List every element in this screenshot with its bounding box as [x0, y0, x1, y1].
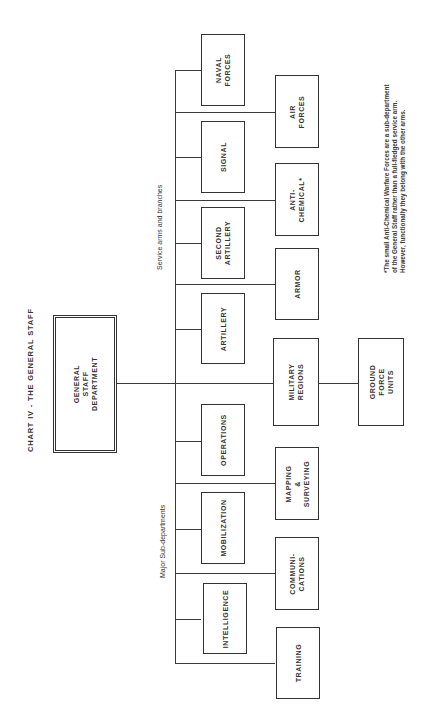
connector-artillery [175, 329, 201, 330]
armor-box: ARMOR [275, 248, 319, 320]
communications-box: COMMUNI- CATIONS [275, 537, 319, 610]
second-artillery-label: SECOND ARTILLERY [214, 221, 232, 265]
connector-air [175, 112, 275, 113]
connector-armor [175, 284, 275, 285]
connector-intelligence [175, 619, 201, 620]
military-regions-box: MILITARY REGIONS [273, 338, 319, 426]
connector-second-artillery [175, 243, 201, 244]
spine-line [175, 70, 176, 664]
intelligence-label: INTELLIGENCE [221, 589, 230, 648]
anti-chemical-box: ANTI- CHEMICAL* [275, 163, 319, 236]
service-arms-label: Service arms and branches [156, 185, 163, 270]
ground-force-units-box: GROUND FORCE UNITS [358, 338, 404, 426]
connector-mapping [175, 483, 275, 484]
chart-title: CHART IV - THE GENERAL STAFF [26, 308, 35, 452]
connector-anti-chemical [175, 200, 275, 201]
connector-naval [175, 70, 201, 71]
armor-label: ARMOR [293, 269, 302, 298]
second-artillery-box: SECOND ARTILLERY [201, 207, 245, 279]
sub-departments-label: Major Sub-departments [159, 505, 166, 578]
root-connector [117, 383, 275, 384]
anti-chemical-label: ANTI- CHEMICAL* [288, 177, 306, 222]
general-staff-department-box: GENERAL STAFF DEPARTMENT [53, 315, 117, 453]
mobilization-box: MOBILIZATION [201, 492, 245, 564]
military-regions-label: MILITARY REGIONS [287, 363, 305, 400]
intelligence-box: INTELLIGENCE [203, 583, 247, 654]
mapping-surveying-box: MAPPING & SURVEYING [275, 447, 319, 520]
operations-label: OPERATIONS [219, 414, 228, 466]
naval-forces-box: NAVAL FORCES [201, 34, 245, 106]
ground-force-units-label: GROUND FORCE UNITS [368, 365, 395, 400]
connector-communications [175, 573, 275, 574]
footnote: *The small Anti-Chemical Warfare Forces … [383, 85, 407, 274]
signal-box: SIGNAL [201, 121, 245, 193]
connector-signal [175, 157, 201, 158]
operations-box: OPERATIONS [201, 404, 245, 476]
connector-training [175, 663, 275, 664]
training-box: TRAINING [276, 627, 320, 699]
air-forces-box: AIR FORCES [275, 75, 319, 148]
mobilization-label: MOBILIZATION [219, 499, 228, 556]
general-staff-department-label: GENERAL STAFF DEPARTMENT [72, 357, 99, 411]
signal-label: SIGNAL [219, 142, 228, 172]
communications-label: COMMUNI- CATIONS [288, 553, 306, 594]
naval-forces-label: NAVAL FORCES [214, 54, 232, 87]
air-forces-label: AIR FORCES [288, 95, 306, 128]
mapping-surveying-label: MAPPING & SURVEYING [284, 460, 311, 507]
artillery-label: ARTILLERY [219, 306, 228, 350]
connector-operations [175, 441, 201, 442]
training-label: TRAINING [294, 644, 303, 683]
artillery-box: ARTILLERY [201, 293, 245, 364]
connector-mobilization [175, 529, 201, 530]
connector-ground-force [318, 383, 358, 384]
